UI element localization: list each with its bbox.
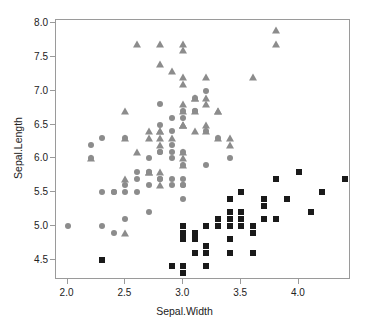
y-axis-tick-label: 5.0 bbox=[20, 219, 48, 230]
data-point-versicolor bbox=[134, 189, 140, 195]
data-point-versicolor bbox=[99, 223, 105, 229]
data-point-versicolor bbox=[180, 176, 186, 182]
data-point-setosa bbox=[227, 236, 233, 242]
data-point-setosa bbox=[296, 169, 302, 175]
data-point-virginica bbox=[133, 148, 141, 155]
data-point-setosa bbox=[238, 223, 244, 229]
data-point-versicolor bbox=[169, 149, 175, 155]
data-point-setosa bbox=[203, 243, 209, 249]
data-point-versicolor bbox=[122, 189, 128, 195]
data-point-virginica bbox=[145, 135, 153, 142]
data-point-versicolor bbox=[146, 155, 152, 161]
data-point-virginica bbox=[87, 155, 95, 162]
data-point-virginica bbox=[179, 81, 187, 88]
data-point-virginica bbox=[249, 74, 257, 81]
data-point-setosa bbox=[192, 230, 198, 236]
y-axis-tick-label: 7.5 bbox=[20, 51, 48, 62]
data-point-versicolor bbox=[146, 209, 152, 215]
data-point-virginica bbox=[121, 229, 129, 236]
data-point-virginica bbox=[156, 168, 164, 175]
data-point-virginica bbox=[168, 67, 176, 74]
data-point-virginica bbox=[202, 128, 210, 135]
x-axis-label: Sepal.Width bbox=[0, 305, 369, 317]
data-points-layer bbox=[56, 20, 349, 278]
data-point-virginica bbox=[121, 108, 129, 115]
data-point-versicolor bbox=[122, 182, 128, 188]
data-point-versicolor bbox=[157, 122, 163, 128]
scatter-plot-figure: 4.55.05.56.06.57.07.58.0 2.02.53.03.54.0… bbox=[0, 0, 369, 336]
x-axis-tick-label: 4.0 bbox=[278, 287, 318, 298]
x-axis-tick-label: 3.0 bbox=[162, 287, 202, 298]
data-point-setosa bbox=[261, 216, 267, 222]
data-point-virginica bbox=[168, 135, 176, 142]
data-point-versicolor bbox=[157, 149, 163, 155]
data-point-versicolor bbox=[122, 216, 128, 222]
data-point-versicolor bbox=[157, 176, 163, 182]
data-point-setosa bbox=[261, 196, 267, 202]
data-point-virginica bbox=[191, 128, 199, 135]
data-point-versicolor bbox=[99, 189, 105, 195]
data-point-setosa bbox=[238, 209, 244, 215]
data-point-setosa bbox=[319, 189, 325, 195]
data-point-versicolor bbox=[180, 196, 186, 202]
data-point-virginica bbox=[121, 175, 129, 182]
x-axis-tick-mark bbox=[182, 279, 183, 284]
data-point-versicolor bbox=[180, 182, 186, 188]
data-point-setosa bbox=[250, 223, 256, 229]
data-point-setosa bbox=[203, 250, 209, 256]
data-point-virginica bbox=[145, 168, 153, 175]
data-point-setosa bbox=[215, 216, 221, 222]
data-point-versicolor bbox=[203, 162, 209, 168]
data-point-virginica bbox=[156, 40, 164, 47]
data-point-versicolor bbox=[111, 230, 117, 236]
data-point-setosa bbox=[273, 176, 279, 182]
x-axis-tick-mark bbox=[240, 279, 241, 284]
data-point-setosa bbox=[284, 196, 290, 202]
data-point-setosa bbox=[203, 263, 209, 269]
data-point-virginica bbox=[191, 108, 199, 115]
data-point-virginica bbox=[156, 182, 164, 189]
y-axis-tick-label: 6.0 bbox=[20, 152, 48, 163]
data-point-virginica bbox=[202, 74, 210, 81]
data-point-setosa bbox=[261, 203, 267, 209]
data-point-setosa bbox=[215, 223, 221, 229]
data-point-virginica bbox=[226, 141, 234, 148]
data-point-versicolor bbox=[169, 155, 175, 161]
data-point-virginica bbox=[179, 47, 187, 54]
data-point-virginica bbox=[121, 135, 129, 142]
data-point-setosa bbox=[192, 236, 198, 242]
data-point-versicolor bbox=[169, 182, 175, 188]
data-point-virginica bbox=[179, 121, 187, 128]
data-point-versicolor bbox=[99, 135, 105, 141]
data-point-versicolor bbox=[169, 115, 175, 121]
data-point-setosa bbox=[273, 216, 279, 222]
data-point-versicolor bbox=[134, 176, 140, 182]
data-point-setosa bbox=[99, 257, 105, 263]
data-point-setosa bbox=[192, 250, 198, 256]
data-point-setosa bbox=[180, 230, 186, 236]
data-point-setosa bbox=[342, 176, 348, 182]
data-point-virginica bbox=[202, 101, 210, 108]
y-axis-tick-label: 7.0 bbox=[20, 84, 48, 95]
data-point-setosa bbox=[227, 196, 233, 202]
data-point-virginica bbox=[133, 40, 141, 47]
data-point-setosa bbox=[308, 209, 314, 215]
data-point-setosa bbox=[238, 189, 244, 195]
data-point-versicolor bbox=[169, 128, 175, 134]
data-point-setosa bbox=[203, 223, 209, 229]
data-point-virginica bbox=[272, 40, 280, 47]
x-axis-tick-label: 3.5 bbox=[220, 287, 260, 298]
data-point-versicolor bbox=[227, 155, 233, 161]
x-axis-tick-label: 2.0 bbox=[47, 287, 87, 298]
x-axis-tick-mark bbox=[67, 279, 68, 284]
data-point-setosa bbox=[250, 230, 256, 236]
data-point-setosa bbox=[180, 270, 186, 276]
data-point-virginica bbox=[272, 27, 280, 34]
data-point-virginica bbox=[179, 162, 187, 169]
y-axis-tick-label: 8.0 bbox=[20, 17, 48, 28]
data-point-setosa bbox=[180, 263, 186, 269]
x-axis-tick-mark bbox=[124, 279, 125, 284]
data-point-setosa bbox=[180, 223, 186, 229]
data-point-virginica bbox=[156, 135, 164, 142]
data-point-setosa bbox=[169, 263, 175, 269]
